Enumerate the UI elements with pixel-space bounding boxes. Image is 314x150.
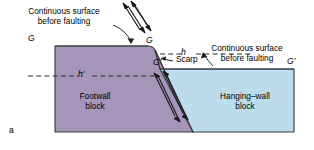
fault-block-diagram: Continuous surface before faulting Conti… — [0, 0, 314, 150]
hangingwall-block-label-line2: block — [203, 102, 287, 112]
right-surface-note-line2: before faulting — [199, 54, 295, 64]
footwall-block-label: Footwall block — [60, 92, 130, 111]
right-surface-note: Continuous surface before faulting — [199, 44, 295, 63]
heave-label: h′ — [78, 70, 84, 80]
left-note-leader-arrowhead — [128, 38, 135, 44]
scarp-label: Scarp — [176, 55, 198, 65]
left-surface-note-line2: before faulting — [16, 17, 112, 27]
marker-g-mid-upper: G — [146, 36, 153, 46]
left-surface-note: Continuous surface before faulting — [16, 7, 112, 26]
slip-arrows-upper — [123, 1, 151, 33]
hangingwall-block-label: Hanging–wall block — [203, 92, 287, 111]
scarp-leader-arrowhead — [161, 56, 167, 60]
marker-g-left: G — [28, 34, 35, 44]
throw-label: h — [181, 48, 186, 58]
footwall-block-label-line2: block — [60, 102, 130, 112]
marker-g-mid-lower: G′ — [153, 58, 161, 68]
panel-label: a — [9, 126, 14, 136]
marker-g-right: G′ — [287, 57, 295, 67]
